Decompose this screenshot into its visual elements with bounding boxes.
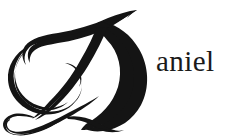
drop-cap-d-icon: D	[0, 0, 160, 137]
wordmark-aniel: aniel	[156, 47, 214, 76]
logo-canvas: D	[0, 0, 236, 137]
